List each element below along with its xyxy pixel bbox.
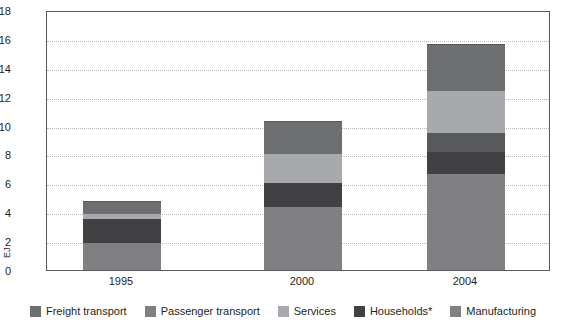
- bar-segment-passenger-transport[interactable]: [427, 133, 505, 152]
- y-tick-label: 18: [0, 5, 11, 17]
- bar-segment-manufacturing[interactable]: [427, 45, 505, 91]
- y-tick-label: 16: [0, 34, 11, 46]
- bar-segment-freight-transport[interactable]: [427, 174, 505, 270]
- bar-top-edge: [264, 121, 342, 122]
- legend-item-freight-transport[interactable]: Freight transport: [30, 305, 127, 317]
- bar-top-edge: [427, 44, 505, 45]
- legend-swatch-icon: [354, 306, 365, 317]
- legend-label: Manufacturing: [466, 305, 536, 317]
- bar-segment-households-[interactable]: [264, 183, 342, 208]
- y-tick-label: 12: [0, 92, 11, 104]
- bar-segment-freight-transport[interactable]: [83, 243, 161, 270]
- y-tick-label: 14: [0, 63, 11, 75]
- bar-top-edge: [83, 201, 161, 202]
- y-tick-label: 4: [0, 207, 11, 219]
- bar-segment-households-[interactable]: [83, 219, 161, 242]
- legend-label: Services: [294, 305, 336, 317]
- bar-segment-manufacturing[interactable]: [83, 202, 161, 214]
- legend-item-households-[interactable]: Households*: [354, 305, 432, 317]
- chart-legend: Freight transportPassenger transportServ…: [0, 300, 566, 322]
- legend-swatch-icon: [450, 306, 461, 317]
- legend-item-passenger-transport[interactable]: Passenger transport: [145, 305, 260, 317]
- y-axis-label: EJ: [2, 247, 12, 258]
- legend-item-services[interactable]: Services: [278, 305, 336, 317]
- legend-swatch-icon: [30, 306, 41, 317]
- chart-root: EJ 024681012141618 199520002004 Freight …: [0, 0, 566, 331]
- x-tick-label-2000: 2000: [242, 275, 362, 287]
- legend-label: Freight transport: [46, 305, 127, 317]
- gridline: [47, 41, 549, 42]
- y-tick-label: 2: [0, 236, 11, 248]
- bar-segment-households-[interactable]: [427, 152, 505, 174]
- bar-segment-services[interactable]: [427, 91, 505, 133]
- bar-segment-services[interactable]: [83, 214, 161, 219]
- legend-item-manufacturing[interactable]: Manufacturing: [450, 305, 536, 317]
- legend-swatch-icon: [145, 306, 156, 317]
- plot-inner: [47, 12, 549, 270]
- legend-label: Passenger transport: [161, 305, 260, 317]
- y-tick-label: 8: [0, 149, 11, 161]
- y-tick-label: 0: [0, 265, 11, 277]
- bar-segment-services[interactable]: [264, 154, 342, 183]
- plot-area: [46, 11, 550, 271]
- y-tick-label: 10: [0, 121, 11, 133]
- x-tick-label-1995: 1995: [61, 275, 181, 287]
- bar-segment-freight-transport[interactable]: [264, 207, 342, 270]
- x-tick-label-2004: 2004: [405, 275, 525, 287]
- y-tick-label: 6: [0, 178, 11, 190]
- legend-swatch-icon: [278, 306, 289, 317]
- legend-label: Households*: [370, 305, 432, 317]
- bar-segment-manufacturing[interactable]: [264, 122, 342, 154]
